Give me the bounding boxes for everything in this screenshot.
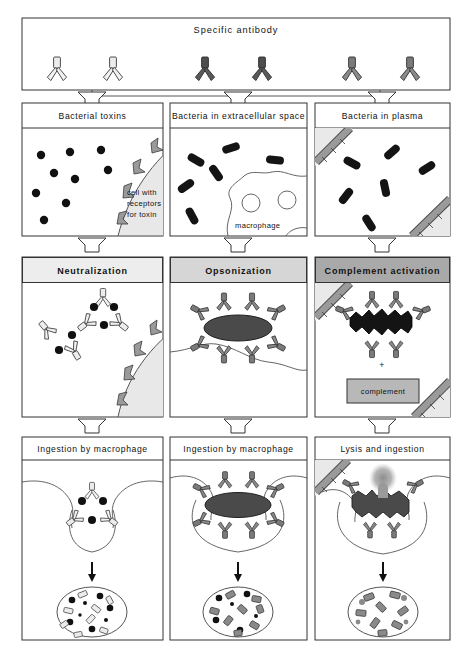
complement-box-label: complement	[361, 387, 406, 396]
panel-title-ingestion-mid: Ingestion by macrophage	[183, 444, 293, 454]
panel-title-bacteria-plasma: Bacteria in plasma	[342, 111, 424, 121]
panel-title-ingestion-left: Ingestion by macrophage	[37, 444, 147, 454]
panel-bacteria-plasma: Bacteria in plasma	[315, 103, 450, 237]
flow-arrows-row2	[78, 238, 396, 252]
panel-title-lysis-ingestion: Lysis and ingestion	[340, 444, 424, 454]
panel-title-bacterial-toxins: Bacterial toxins	[59, 111, 127, 121]
annotation-cell-line1: cell with	[127, 188, 157, 197]
immunology-diagram: Specific antibody Bacterial toxins	[0, 0, 474, 670]
arrow-to-neutralization	[78, 238, 106, 252]
header-neutralization: Neutralization	[57, 266, 128, 276]
annotation-cell-line2: receptors	[127, 199, 161, 208]
flow-arrows-row3	[78, 419, 396, 433]
panel-bacteria-extracellular: Bacteria in extracellular space macropha…	[170, 103, 307, 236]
arrow-to-opsonization	[224, 238, 252, 252]
panel-complement-activation: Complement activation	[315, 257, 450, 418]
panel-opsonization: Opsonization	[170, 257, 307, 417]
annotation-cell-line3: for toxin	[127, 210, 157, 219]
arrow-to-lysis	[368, 419, 396, 433]
top-panel-title: Specific antibody	[194, 25, 279, 35]
panel-lysis-ingestion: Lysis and ingestion	[315, 437, 450, 640]
plus-sign: +	[379, 360, 385, 370]
panel-ingestion-mid: Ingestion by macrophage	[170, 437, 307, 640]
panel-bacterial-toxins: Bacterial toxins cell with receptors for…	[22, 103, 186, 236]
figure-canvas: Specific antibody Bacterial toxins	[0, 0, 474, 670]
header-opsonization: Opsonization	[205, 266, 272, 276]
arrow-to-ingestion-mid	[224, 419, 252, 433]
panel-title-bacteria-extracellular: Bacteria in extracellular space	[172, 111, 305, 121]
top-antibody-panel: Specific antibody	[22, 18, 450, 90]
header-complement-activation: Complement activation	[325, 266, 441, 276]
annotation-macrophage: macrophage	[235, 221, 280, 230]
arrow-to-ingestion-left	[78, 419, 106, 433]
panel-neutralization: Neutralization	[22, 257, 186, 417]
panel-ingestion-left: Ingestion by macrophage	[22, 437, 163, 640]
arrow-to-complement	[368, 238, 396, 252]
